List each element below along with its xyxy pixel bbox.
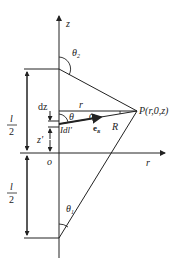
r-segment-label: r	[79, 99, 83, 110]
theta1-label: θ1	[66, 203, 74, 215]
origin-label: o	[47, 156, 52, 167]
unit-vector-label: eR	[93, 123, 101, 134]
bottom-half-den: 2	[9, 194, 14, 205]
current-element-label: Idl'	[59, 125, 73, 135]
line-top-to-p	[59, 69, 137, 111]
z-axis-label: z	[65, 18, 70, 29]
top-half-num: l	[10, 113, 13, 124]
top-half-den: 2	[9, 126, 14, 137]
bottom-half-num: l	[10, 181, 13, 192]
z-prime-label: z'	[36, 134, 44, 145]
alpha-label: α	[89, 110, 95, 121]
theta-label: θ	[69, 111, 74, 122]
line-current-field-diagram: z r o θ2 θ1 θ α P(r,0,z) r R eR dz Idl' …	[0, 0, 183, 266]
dz-label: dz	[38, 101, 48, 112]
point-p-label: P(r,0,z)	[138, 105, 169, 117]
theta2-label: θ2	[72, 47, 80, 59]
R-segment-label: R	[111, 121, 118, 132]
r-axis-label: r	[146, 157, 150, 168]
theta-arc	[59, 114, 68, 122]
